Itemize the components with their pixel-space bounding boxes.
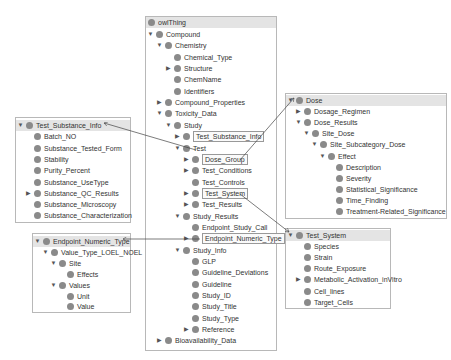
collapse-toggle-icon[interactable]: ▶	[156, 97, 163, 108]
tree-node[interactable]: ▼Test_System	[287, 230, 346, 241]
collapse-toggle-icon[interactable]: ▶	[156, 335, 163, 346]
tree-node[interactable]: Severity	[327, 173, 371, 184]
tree-node[interactable]: Identifiers	[165, 86, 214, 97]
tree-node[interactable]: Route_Exposure	[295, 263, 366, 274]
expand-toggle-icon[interactable]: ▼	[156, 40, 163, 51]
tree-node[interactable]: ▶Test_Conditions	[183, 165, 252, 176]
collapse-toggle-icon[interactable]: ▶	[165, 63, 172, 74]
collapse-toggle-icon[interactable]: ▶	[183, 188, 190, 199]
tree-node[interactable]: ▼Chemistry	[156, 40, 207, 51]
tree-node[interactable]: ▼Study_Info	[174, 245, 226, 256]
tree-node[interactable]: ▼Test	[174, 143, 206, 154]
tree-node[interactable]: ▼Values	[50, 280, 90, 291]
tree-node[interactable]: ▼Compound	[147, 29, 200, 40]
tree-node[interactable]: Chemical_Type	[165, 52, 232, 63]
tree-node[interactable]: Effects	[58, 269, 98, 280]
tree-node[interactable]: ▼Site_Subcategory_Dose	[311, 139, 406, 150]
tree-node[interactable]: Endpoint_Study_Call	[183, 222, 267, 233]
node-label: Endpoint_Numeric_Type	[202, 233, 285, 244]
tree-node[interactable]: ▶Reference	[183, 324, 234, 335]
tree-node[interactable]: ▼Study_Results	[174, 211, 238, 222]
expand-toggle-icon[interactable]: ▼	[17, 120, 24, 131]
expand-toggle-icon[interactable]: ▼	[287, 95, 294, 106]
tree-node[interactable]: ▼Value_Type_LOEL_NOEL	[42, 247, 142, 258]
collapse-toggle-icon[interactable]: ▶	[183, 165, 190, 176]
tree-node[interactable]: Purity_Percent	[25, 165, 90, 176]
tree-node[interactable]: ▼Effect	[319, 151, 356, 162]
class-icon	[192, 326, 199, 333]
tree-node[interactable]: Unit	[58, 291, 89, 302]
tree-node[interactable]: ▼Site	[50, 258, 81, 269]
tree-node[interactable]: ▶Test_Substance_Info	[174, 131, 264, 142]
expand-toggle-icon[interactable]: ▼	[147, 29, 154, 40]
collapse-toggle-icon[interactable]: ▶	[183, 154, 190, 165]
tree-node[interactable]: Treatment-Related_Significance	[327, 206, 446, 217]
tree-node[interactable]: Test_Controls	[183, 177, 245, 188]
expand-toggle-icon[interactable]: ▼	[50, 280, 57, 291]
tree-node[interactable]: Study_Type	[183, 313, 239, 324]
expand-toggle-icon[interactable]: ▼	[42, 247, 49, 258]
tree-node[interactable]: ▶Test_System	[183, 188, 248, 199]
expand-toggle-icon[interactable]: ▼	[287, 230, 294, 241]
expand-toggle-icon[interactable]: ▼	[303, 128, 310, 139]
tree-node[interactable]: ▼Site_Dose	[303, 128, 354, 139]
expand-toggle-icon[interactable]: ▼	[174, 245, 181, 256]
tree-node[interactable]: ▼Dose	[287, 95, 322, 106]
tree-node[interactable]: ▶Metabolic_Activation_inVitro	[295, 274, 402, 285]
tree-node[interactable]: Target_Cells	[295, 297, 353, 308]
tree-node[interactable]: Species	[295, 241, 339, 252]
tree-node[interactable]: ▼Test_Substance_Info	[17, 120, 101, 131]
tree-node[interactable]: ▼Study	[165, 120, 202, 131]
tree-node[interactable]: Study_Title	[183, 301, 237, 312]
tree-node[interactable]: Cell_lines	[295, 286, 344, 297]
collapse-toggle-icon[interactable]: ▶	[183, 233, 190, 244]
tree-node[interactable]: ▶Dose_Group	[183, 154, 248, 165]
node-label: Value_Type_LOEL_NOEL	[61, 247, 142, 258]
collapse-toggle-icon[interactable]: ▶	[183, 324, 190, 335]
expand-toggle-icon[interactable]: ▼	[174, 143, 181, 154]
tree-node[interactable]: Time_Finding	[327, 195, 388, 206]
tree-node[interactable]: Batch_NO	[25, 131, 76, 142]
tree-node[interactable]: Guideline	[183, 279, 232, 290]
class-icon	[192, 235, 199, 242]
tree-node[interactable]: Strain	[295, 252, 332, 263]
tree-node[interactable]: ▶Bioavailability_Data	[156, 335, 236, 346]
expand-toggle-icon[interactable]: ▼	[295, 117, 302, 128]
tree-node[interactable]: ▼Toxicity_Data	[156, 108, 217, 119]
tree-node[interactable]: ▶Dosage_Regimen	[295, 106, 370, 117]
tree-root-owl-thing[interactable]: owlThing	[148, 17, 186, 28]
class-icon	[156, 31, 163, 38]
tree-node[interactable]: GLP	[183, 256, 216, 267]
tree-node[interactable]: Substance_UseType	[25, 177, 109, 188]
expand-toggle-icon[interactable]: ▼	[165, 120, 172, 131]
tree-node[interactable]: Stability	[25, 154, 69, 165]
tree-node[interactable]: Description	[327, 162, 381, 173]
tree-node[interactable]: Substance_Tested_Form	[25, 143, 122, 154]
tree-node[interactable]: Substance_Microscopy	[25, 199, 116, 210]
collapse-toggle-icon[interactable]: ▶	[295, 274, 302, 285]
tree-node[interactable]: ▼Dose_Results	[295, 117, 358, 128]
tree-node[interactable]: Guideline_Deviations	[183, 267, 268, 278]
collapse-toggle-icon[interactable]: ▶	[295, 106, 302, 117]
tree-node[interactable]: Substance_Characterization	[25, 210, 132, 221]
expand-toggle-icon[interactable]: ▼	[174, 211, 181, 222]
tree-node[interactable]: ▶Endpoint_Numeric_Type	[183, 233, 285, 244]
expand-toggle-icon[interactable]: ▼	[34, 236, 41, 247]
collapse-toggle-icon[interactable]: ▶	[174, 131, 181, 142]
tree-node[interactable]: Study_ID	[183, 290, 231, 301]
tree-node[interactable]: ▶Substance_QC_Results	[25, 188, 119, 199]
tree-node[interactable]: Value	[58, 301, 94, 312]
expand-toggle-icon[interactable]: ▼	[311, 139, 318, 150]
expand-toggle-icon[interactable]: ▼	[156, 108, 163, 119]
node-label: Test_Substance_Info	[193, 131, 264, 142]
tree-node[interactable]: ▼Endpoint_Numeric_Type	[34, 236, 130, 247]
tree-node[interactable]: ▶Structure	[165, 63, 212, 74]
expand-toggle-icon[interactable]: ▼	[319, 151, 326, 162]
tree-node[interactable]: ▶Test_Results	[183, 199, 242, 210]
collapse-toggle-icon[interactable]: ▶	[183, 199, 190, 210]
tree-node[interactable]: ▶Compound_Properties	[156, 97, 245, 108]
collapse-toggle-icon[interactable]: ▶	[25, 188, 32, 199]
tree-node[interactable]: ChemName	[165, 74, 221, 85]
expand-toggle-icon[interactable]: ▼	[50, 258, 57, 269]
tree-node[interactable]: Statistical_Significance	[327, 184, 418, 195]
